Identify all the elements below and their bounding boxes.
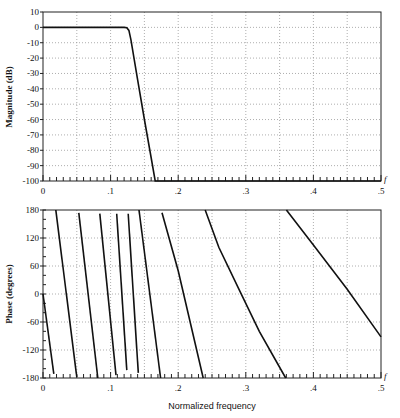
x-axis-label: Normalized frequency xyxy=(168,401,256,411)
y-tick-label: 0 xyxy=(35,22,40,32)
y-tick-label: 60 xyxy=(30,261,40,271)
curve-phase-seg-3 xyxy=(79,213,98,378)
y-tick-label: -20 xyxy=(27,53,39,63)
mag-f-symbol: f xyxy=(384,174,388,184)
y-tick-label: -50 xyxy=(27,99,39,109)
curve-phase-seg-2 xyxy=(56,210,77,377)
curve-phase-seg-4 xyxy=(100,214,116,376)
y-tick-label: -60 xyxy=(27,317,39,327)
y-tick-label: -80 xyxy=(27,145,39,155)
y-tick-label: 180 xyxy=(26,205,40,215)
curve-phase-seg-10 xyxy=(286,210,381,337)
curve-phase-seg-5 xyxy=(117,214,127,370)
x-tick-label: .4 xyxy=(310,186,317,196)
y-tick-label: -100 xyxy=(23,176,40,186)
curve-phase-seg-6 xyxy=(128,214,138,373)
x-tick-label: .3 xyxy=(242,186,249,196)
curve-phase-seg-8 xyxy=(162,213,203,378)
x-tick-label: .1 xyxy=(107,186,114,196)
phase-f-symbol: f xyxy=(384,371,388,381)
y-tick-label: -70 xyxy=(27,130,39,140)
y-tick-label: -90 xyxy=(27,161,39,171)
x-tick-label: .4 xyxy=(310,383,317,393)
x-tick-label: .2 xyxy=(175,383,182,393)
curve-phase-seg-1 xyxy=(43,294,54,374)
x-tick-label: 0 xyxy=(41,186,46,196)
phase-y-axis-label: Phase (degrees) xyxy=(4,264,14,324)
y-tick-label: -180 xyxy=(23,373,40,383)
x-tick-label: .5 xyxy=(378,383,385,393)
x-tick-label: .2 xyxy=(175,186,182,196)
magnitude-plot: 0.1.2.3.4.5100-10-20-30-40-50-60-70-80-9… xyxy=(23,7,385,196)
y-tick-label: -10 xyxy=(27,38,39,48)
y-tick-label: -30 xyxy=(27,68,39,78)
x-tick-label: .1 xyxy=(107,383,114,393)
filter-response-chart: 0.1.2.3.4.5100-10-20-30-40-50-60-70-80-9… xyxy=(0,0,400,418)
y-tick-label: 0 xyxy=(35,289,40,299)
y-tick-label: 10 xyxy=(30,7,40,17)
y-tick-label: 120 xyxy=(26,233,40,243)
x-tick-label: .5 xyxy=(378,186,385,196)
phase-plot: 0.1.2.3.4.5180120600-60-120-180 xyxy=(23,205,385,393)
y-tick-label: -60 xyxy=(27,115,39,125)
y-tick-label: -40 xyxy=(27,84,39,94)
y-tick-label: -120 xyxy=(23,345,40,355)
x-tick-label: .3 xyxy=(242,383,249,393)
x-tick-label: 0 xyxy=(41,383,46,393)
magnitude-y-axis-label: Magnitude (dB) xyxy=(4,66,14,127)
